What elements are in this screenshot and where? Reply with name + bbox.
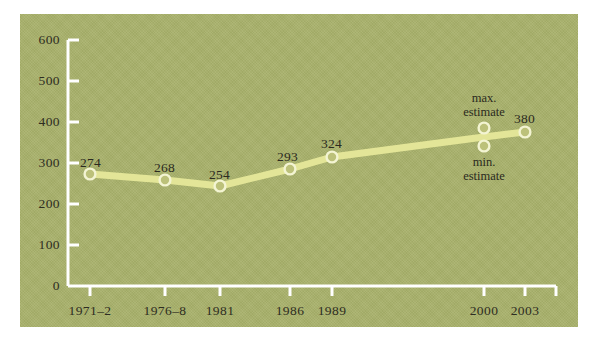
annotation-max-estimate-line1: max. (441, 91, 527, 105)
data-label-268: 268 (154, 160, 175, 176)
data-point-1989 (327, 152, 338, 163)
annotation-min-estimate-line1: min. (441, 155, 527, 169)
data-point-2000-min (479, 141, 490, 152)
x-tick-label-2003: 2003 (497, 303, 553, 319)
y-tick-label-500: 500 (22, 73, 60, 89)
x-tick-label-1989: 1989 (304, 303, 360, 319)
data-point-1986 (285, 164, 296, 175)
data-label-254: 254 (209, 167, 230, 183)
data-point-2003 (520, 127, 531, 138)
y-axis (68, 40, 79, 286)
y-tick-label-200: 200 (22, 196, 60, 212)
data-label-324: 324 (321, 136, 342, 152)
annotation-max-estimate-line2: estimate (441, 105, 527, 119)
annotation-min-estimate-line2: estimate (441, 169, 527, 183)
annotation-max-estimate: max. estimate (441, 91, 527, 119)
data-label-274: 274 (80, 155, 101, 171)
x-axis (68, 286, 556, 296)
y-tick-label-100: 100 (22, 237, 60, 253)
y-tick-label-400: 400 (22, 114, 60, 130)
y-tick-label-300: 300 (22, 155, 60, 171)
chart-figure: 600 500 400 300 200 100 0 1971–2 1976–8 … (0, 0, 599, 344)
x-tick-label-1981: 1981 (192, 303, 248, 319)
x-tick-label-1976-8: 1976–8 (129, 303, 201, 319)
y-tick-label-600: 600 (22, 32, 60, 48)
y-tick-label-0: 0 (22, 278, 60, 294)
data-label-293: 293 (277, 149, 298, 165)
data-point-1976-8 (160, 175, 171, 186)
x-tick-label-1971-2: 1971–2 (54, 303, 126, 319)
data-point-2000-max (479, 123, 490, 134)
annotation-min-estimate: min. estimate (441, 155, 527, 183)
